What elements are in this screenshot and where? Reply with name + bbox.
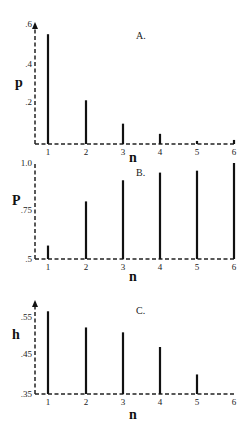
panel-title: A. (136, 30, 146, 41)
x-tick-label: 1 (46, 262, 51, 272)
y-axis-label: p (15, 75, 23, 90)
x-tick-label: 3 (121, 397, 126, 407)
x-tick-label: 5 (195, 262, 200, 272)
y-tick-label: .2 (25, 97, 32, 107)
x-tick-label: 4 (158, 397, 163, 407)
y-axis-label: h (12, 327, 20, 342)
x-tick-label: 3 (121, 262, 126, 272)
y-tick-label: .55 (21, 312, 33, 322)
panel-title: B. (136, 167, 145, 178)
y-axis-arrow-icon (32, 300, 38, 307)
x-tick-label: 2 (84, 397, 89, 407)
x-tick-label: 5 (195, 147, 200, 157)
panel-title: C. (136, 305, 145, 316)
x-axis-label: n (129, 407, 137, 422)
y-tick-label: 1.0 (21, 158, 33, 168)
chart-panel-b: 1.0.75.5123456PnB. (12, 158, 237, 284)
x-tick-label: 2 (84, 147, 89, 157)
x-tick-label: 6 (232, 147, 237, 157)
x-tick-label: 4 (158, 147, 163, 157)
y-tick-label: .75 (21, 205, 33, 215)
y-tick-label: .4 (25, 59, 32, 69)
y-axis-label: P (12, 193, 21, 208)
y-tick-label: .45 (21, 349, 33, 359)
x-tick-label: 5 (195, 397, 200, 407)
x-tick-label: 1 (46, 147, 51, 157)
chart-panel-a: .6.4.2123456pnA. (15, 19, 237, 165)
x-tick-label: 4 (158, 262, 163, 272)
x-axis-label: n (129, 150, 137, 165)
y-tick-label: .5 (25, 254, 32, 264)
x-tick-label: 2 (84, 262, 89, 272)
chart-figure: .6.4.2123456pnA.1.0.75.5123456PnB..55.45… (0, 0, 252, 434)
x-tick-label: 6 (232, 397, 237, 407)
chart-panel-c: .55.45.35123456hnC. (12, 300, 237, 422)
x-tick-label: 3 (121, 147, 126, 157)
x-tick-label: 1 (46, 397, 51, 407)
y-axis-arrow-icon (32, 22, 38, 29)
y-tick-label: .35 (21, 389, 33, 399)
x-axis-label: n (129, 269, 137, 284)
x-tick-label: 6 (232, 262, 237, 272)
y-tick-label: .6 (25, 19, 32, 29)
